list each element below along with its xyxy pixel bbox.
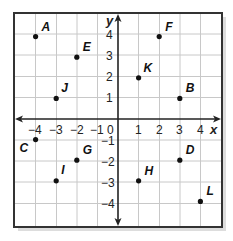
point-a — [33, 34, 38, 39]
point-e — [74, 55, 79, 60]
point-i — [54, 178, 59, 183]
point-f — [157, 34, 162, 39]
point-h — [136, 178, 141, 183]
x-tick: 3 — [176, 123, 183, 137]
point-label: B — [186, 81, 195, 95]
point-label: L — [206, 184, 213, 198]
coordinate-plane: x y 0 −4 −3 −2 −1 1 2 3 4 4 3 2 1 −1 −2 … — [0, 0, 233, 241]
point-label: C — [20, 141, 29, 155]
point-label: J — [61, 81, 68, 95]
point-b — [177, 96, 182, 101]
x-tick: 2 — [156, 123, 163, 137]
y-tick: 3 — [106, 49, 113, 63]
point-j — [54, 96, 59, 101]
y-tick: 1 — [106, 91, 113, 105]
x-tick: 1 — [135, 123, 142, 137]
point-d — [177, 158, 182, 163]
point-k — [136, 75, 141, 80]
point-c — [33, 137, 38, 142]
point-label: F — [165, 20, 173, 34]
point-label: H — [145, 164, 154, 178]
y-tick: 4 — [106, 28, 113, 42]
x-axis-label: x — [209, 122, 218, 137]
point-label: G — [83, 143, 92, 157]
y-tick: −3 — [101, 176, 115, 190]
point-label: D — [186, 143, 195, 157]
point-g — [74, 158, 79, 163]
y-tick: −1 — [101, 134, 115, 148]
point-label: K — [144, 61, 154, 75]
y-tick: 2 — [106, 70, 113, 84]
x-tick: −2 — [70, 123, 84, 137]
y-tick: −4 — [101, 197, 115, 211]
x-tick: −3 — [49, 123, 63, 137]
point-label: A — [41, 20, 51, 34]
y-tick: −2 — [101, 155, 115, 169]
x-tick: −4 — [28, 123, 42, 137]
y-axis-label: y — [105, 13, 114, 28]
point-label: E — [83, 40, 92, 54]
point-l — [198, 199, 203, 204]
x-tick: 4 — [197, 123, 204, 137]
